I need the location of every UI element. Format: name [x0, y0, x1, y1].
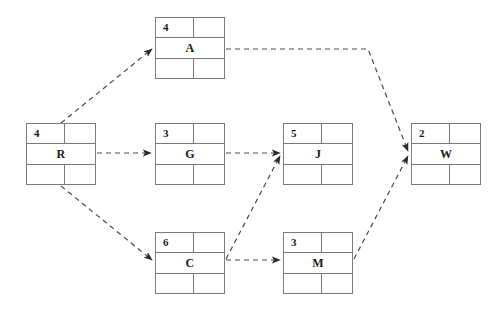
node-top-row: 2	[412, 124, 480, 144]
node-bottom-row	[27, 164, 95, 184]
node-g[interactable]: 3G	[155, 123, 225, 185]
duration-cell: 5	[284, 124, 322, 143]
node-top-row: 3	[156, 124, 224, 144]
node-top-row: 3	[284, 233, 352, 253]
node-label: A	[186, 42, 195, 54]
top-right-cell	[65, 124, 95, 143]
node-label: C	[186, 257, 195, 269]
node-label: M	[312, 257, 324, 269]
node-bottom-row	[284, 273, 352, 293]
node-bottom-row	[412, 164, 480, 184]
node-label-row: R	[27, 144, 95, 163]
duration-cell: 6	[156, 233, 194, 252]
top-right-cell	[194, 233, 224, 252]
edge-m-w	[354, 156, 408, 259]
bottom-left-cell	[284, 165, 322, 184]
bottom-left-cell	[27, 165, 65, 184]
node-bottom-row	[284, 164, 352, 184]
node-bottom-row	[156, 273, 224, 293]
bottom-right-cell	[450, 165, 480, 184]
node-label: W	[440, 148, 452, 160]
duration-cell: 4	[27, 124, 65, 143]
duration-value: 2	[419, 128, 425, 139]
node-top-row: 6	[156, 233, 224, 253]
duration-value: 3	[291, 237, 297, 248]
top-right-cell	[322, 233, 352, 252]
node-label: R	[57, 148, 66, 160]
bottom-right-cell	[194, 274, 224, 293]
bottom-left-cell	[284, 274, 322, 293]
duration-value: 3	[163, 128, 169, 139]
node-j[interactable]: 5J	[283, 123, 353, 185]
bottom-right-cell	[194, 165, 224, 184]
bottom-left-cell	[156, 59, 194, 78]
duration-cell: 3	[284, 233, 322, 252]
duration-value: 4	[163, 22, 169, 33]
bottom-left-cell	[156, 165, 194, 184]
edge-c-j	[226, 156, 280, 259]
bottom-right-cell	[322, 274, 352, 293]
node-label-row: J	[284, 144, 352, 163]
node-label-row: A	[156, 38, 224, 57]
duration-value: 5	[291, 128, 297, 139]
edge-r-c	[61, 186, 152, 260]
edge-r-a	[61, 49, 152, 123]
bottom-right-cell	[65, 165, 95, 184]
node-label: G	[185, 148, 195, 160]
bottom-right-cell	[322, 165, 352, 184]
duration-cell: 4	[156, 18, 194, 37]
network-diagram-canvas: 4R4A3G6C5J3M2W	[0, 0, 500, 310]
top-right-cell	[194, 124, 224, 143]
duration-cell: 3	[156, 124, 194, 143]
node-top-row: 5	[284, 124, 352, 144]
duration-value: 6	[163, 237, 169, 248]
node-label: J	[315, 148, 321, 160]
node-bottom-row	[156, 58, 224, 78]
duration-cell: 2	[412, 124, 450, 143]
top-right-cell	[450, 124, 480, 143]
node-m[interactable]: 3M	[283, 232, 353, 294]
bottom-left-cell	[156, 274, 194, 293]
node-a[interactable]: 4A	[155, 17, 225, 79]
node-label-row: G	[156, 144, 224, 163]
node-label-row: W	[412, 144, 480, 163]
node-r[interactable]: 4R	[26, 123, 96, 185]
node-c[interactable]: 6C	[155, 232, 225, 294]
node-w[interactable]: 2W	[411, 123, 481, 185]
bottom-left-cell	[412, 165, 450, 184]
node-label-row: C	[156, 253, 224, 272]
top-right-cell	[322, 124, 352, 143]
node-top-row: 4	[156, 18, 224, 38]
node-label-row: M	[284, 253, 352, 272]
duration-value: 4	[34, 128, 40, 139]
top-right-cell	[194, 18, 224, 37]
node-top-row: 4	[27, 124, 95, 144]
node-bottom-row	[156, 164, 224, 184]
bottom-right-cell	[194, 59, 224, 78]
